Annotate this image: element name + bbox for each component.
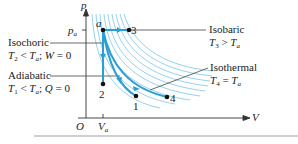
isothermal-condition: T4 = Ta <box>210 74 257 91</box>
isobaric-annotation: Isobaric T3 > Ta <box>209 23 244 53</box>
point-a-label: a <box>96 17 102 30</box>
isobaric-title: Isobaric <box>209 23 244 36</box>
adiabatic-condition: T1 < Ta; Q = 0 <box>8 82 70 99</box>
origin-label: O <box>76 120 84 133</box>
point-1-label: 1 <box>133 100 139 113</box>
p-axis-label: p <box>81 0 87 12</box>
point-2-label: 2 <box>99 88 105 101</box>
adiabatic-annotation: Adiabatic T1 < Ta; Q = 0 <box>8 69 70 99</box>
point-4-label: 4 <box>170 92 176 105</box>
isochoric-title: Isochoric <box>8 36 71 49</box>
isochoric-annotation: Isochoric T2 < Ta; W = 0 <box>8 36 71 66</box>
v-axis-label: V <box>252 111 259 124</box>
isobaric-condition: T3 > Ta <box>209 36 244 53</box>
adiabatic-title: Adiabatic <box>8 69 70 82</box>
isothermal-annotation: Isothermal T4 = Ta <box>210 61 257 91</box>
isochoric-condition: T2 < Ta; W = 0 <box>8 49 71 66</box>
isothermal-title: Isothermal <box>210 61 257 74</box>
point-3-label: 3 <box>131 24 137 37</box>
divider <box>34 135 298 137</box>
